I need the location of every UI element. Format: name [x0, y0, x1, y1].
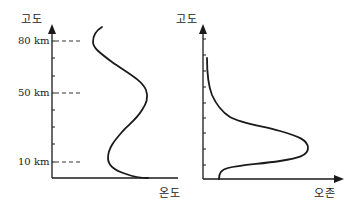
left-x-axis-title: 온도: [159, 184, 181, 200]
right-y-axis-arrow-icon: [199, 24, 207, 34]
left-y-axis-title: 고도: [21, 10, 43, 26]
chart-canvas: [0, 0, 360, 211]
tick-label-80km: 80 km: [18, 35, 49, 46]
ozone-curve: [207, 58, 308, 179]
right-x-axis-title: 오존: [314, 184, 336, 200]
tick-label-50km: 50 km: [18, 87, 49, 98]
left-reference-lines: [55, 41, 82, 162]
right-y-axis-title: 고도: [176, 10, 198, 26]
left-chart: [48, 24, 178, 178]
right-chart: [199, 24, 344, 183]
tick-label-10km: 10 km: [18, 156, 49, 167]
right-x-axis-arrow-icon: [334, 175, 344, 183]
temperature-curve: [93, 27, 148, 178]
left-y-axis-arrow-icon: [48, 24, 56, 34]
